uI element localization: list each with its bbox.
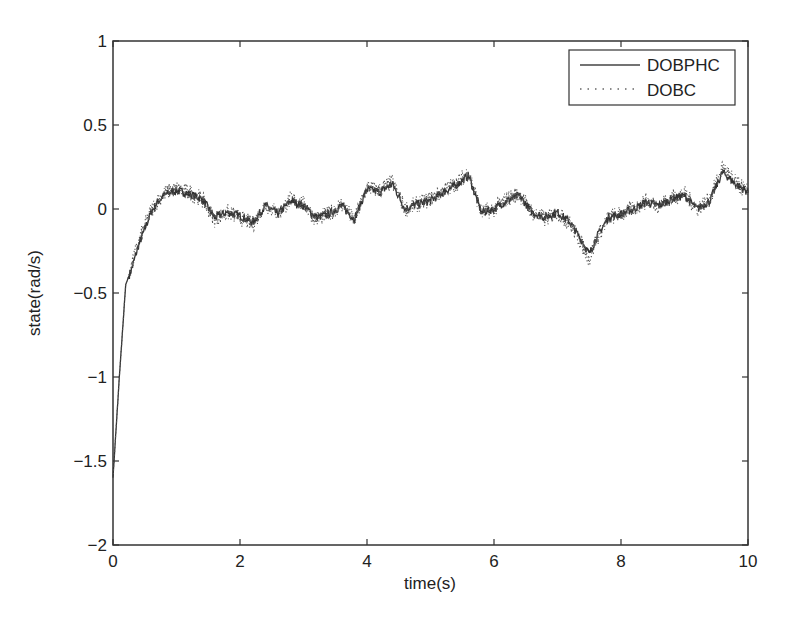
y-tick-label: −1: [88, 368, 107, 387]
legend-label-dobc: DOBC: [647, 81, 696, 100]
y-tick-label: −0.5: [73, 284, 107, 303]
y-tick-label: 1: [98, 32, 107, 51]
x-tick-label: 10: [739, 552, 758, 571]
y-tick-label: −1.5: [73, 452, 107, 471]
legend-label-dobphc: DOBPHC: [647, 56, 720, 75]
x-axis-label: time(s): [404, 574, 456, 593]
plot-area: [113, 41, 748, 545]
y-tick-label: 0: [98, 200, 107, 219]
x-tick-label: 4: [362, 552, 371, 571]
y-tick-label: −2: [88, 536, 107, 555]
x-tick-label: 0: [108, 552, 117, 571]
line-chart: 024681010.50−0.5−1−1.5−2 time(s) state(r…: [0, 0, 794, 629]
legend: DOBPHC DOBC: [569, 50, 735, 105]
x-tick-label: 8: [616, 552, 625, 571]
x-tick-label: 6: [489, 552, 498, 571]
y-axis-label: state(rad/s): [25, 250, 44, 336]
axes-frame: [113, 41, 748, 545]
x-tick-label: 2: [235, 552, 244, 571]
y-tick-label: 0.5: [83, 116, 107, 135]
